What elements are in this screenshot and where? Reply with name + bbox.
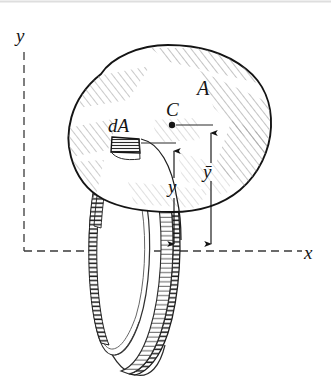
element-dA-patch: [111, 137, 140, 153]
centroid-marker: [169, 122, 175, 128]
centroid-dot: [169, 122, 175, 128]
distance-y-label: y: [166, 176, 177, 197]
y-axis-label: y: [14, 25, 25, 46]
distance-y-bar-label: ȳ: [201, 161, 212, 182]
figure-canvas: y x A C dA y ȳ: [0, 0, 331, 388]
x-axis-label: x: [303, 242, 313, 263]
pappus-guldinus-diagram: y x A C dA y ȳ: [0, 0, 331, 388]
area-label: A: [195, 77, 210, 99]
element-label: dA: [108, 115, 130, 136]
centroid-label: C: [166, 99, 179, 120]
